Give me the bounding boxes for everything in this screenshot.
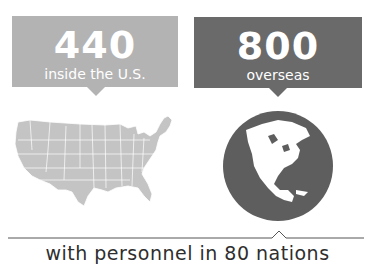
overseas-label: overseas <box>194 67 362 83</box>
callout-pointer <box>87 87 105 96</box>
globe-icon <box>222 110 334 222</box>
tagline: with personnel in 80 nations <box>0 242 375 264</box>
us-label: inside the U.S. <box>12 66 178 82</box>
overseas-count: 800 <box>194 26 362 66</box>
us-stat-callout: 440 inside the U.S. <box>12 16 178 87</box>
callout-pointer <box>269 88 287 97</box>
divider-line-with-pointer <box>8 228 364 242</box>
overseas-stat-callout: 800 overseas <box>194 17 362 88</box>
us-map-icon <box>10 110 180 210</box>
us-count: 440 <box>12 25 178 65</box>
